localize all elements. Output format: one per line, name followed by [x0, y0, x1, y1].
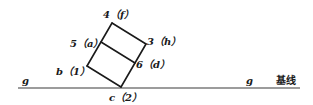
label-point-3h: 3（h） — [147, 36, 181, 47]
label-point-6d: 6（d） — [136, 59, 170, 70]
label-point-b1: b（1） — [56, 66, 90, 77]
label-baseline-g-left: g — [22, 75, 29, 86]
label-point-4f: 4（f） — [103, 9, 134, 20]
edge-4-3 — [112, 23, 146, 44]
label-baseline-name: 基线 — [275, 74, 296, 86]
edge-5-6 — [101, 42, 135, 63]
diagram-canvas: 4（f） 3（h） 5（a） 6（d） b（1） c（2） g g 基线 — [0, 0, 313, 105]
label-point-c2: c（2） — [109, 92, 142, 103]
label-point-5a: 5（a） — [70, 38, 103, 49]
edge-c-b — [87, 66, 121, 87]
label-baseline-g-right: g — [246, 75, 253, 86]
